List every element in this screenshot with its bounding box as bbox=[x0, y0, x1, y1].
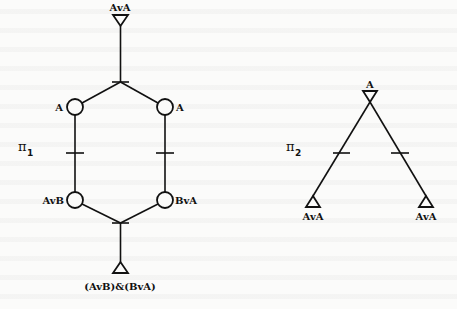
pi1-upper-left-label: A bbox=[54, 102, 63, 113]
pi1-top-label: AvA bbox=[109, 2, 131, 13]
pi2-top-triangle-icon bbox=[363, 91, 377, 102]
pi1-label: π bbox=[18, 139, 27, 154]
pi1-upper-right-label: A bbox=[175, 102, 184, 113]
pi1-lower-left-edge bbox=[82, 204, 121, 223]
pi2-label: π bbox=[286, 139, 295, 154]
pi2-bottom-right-triangle-icon bbox=[419, 196, 433, 207]
pi1-top-conclusion-triangle-icon bbox=[113, 15, 128, 26]
pi1-lower-left-label: AvB bbox=[41, 195, 64, 206]
proof-net-pi2: A π 2 AvA AvA bbox=[286, 79, 437, 222]
pi2-bottom-left-label: AvA bbox=[302, 211, 324, 222]
pi1-upper-left-node-icon bbox=[67, 99, 83, 115]
pi1-lower-right-edge bbox=[121, 204, 159, 223]
pi1-bottom-conclusion-triangle-icon bbox=[113, 262, 128, 273]
pi1-lower-left-node-icon bbox=[67, 192, 83, 208]
pi2-left-edge bbox=[313, 102, 370, 196]
pi2-top-label: A bbox=[365, 79, 374, 90]
pi1-subscript: 1 bbox=[27, 148, 33, 158]
proof-net-diagram: AvA A A π 1 AvB BvA (AvB)&(BvA) bbox=[0, 0, 457, 309]
pi1-lower-right-node-icon bbox=[157, 192, 173, 208]
pi1-lower-right-label: BvA bbox=[175, 195, 197, 206]
pi1-upper-left-edge bbox=[82, 82, 121, 103]
pi1-upper-right-node-icon bbox=[157, 99, 173, 115]
pi2-right-edge bbox=[370, 102, 426, 196]
proof-net-pi1: AvA A A π 1 AvB BvA (AvB)&(BvA) bbox=[18, 2, 197, 292]
pi2-bottom-left-triangle-icon bbox=[306, 196, 320, 207]
pi1-upper-right-edge bbox=[121, 82, 159, 103]
pi2-bottom-right-label: AvA bbox=[415, 211, 437, 222]
pi2-subscript: 2 bbox=[295, 148, 301, 158]
pi1-bottom-label: (AvB)&(BvA) bbox=[84, 281, 156, 292]
